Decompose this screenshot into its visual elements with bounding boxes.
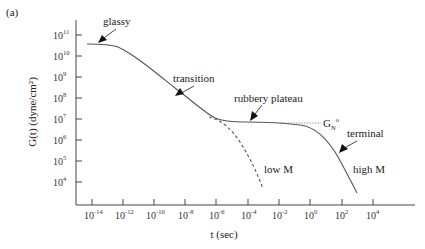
terminal-annotation: terminal	[339, 127, 384, 153]
gn0-label: GNo	[323, 116, 339, 131]
svg-text:10-4: 10-4	[241, 208, 257, 221]
svg-text:102: 102	[335, 208, 348, 221]
svg-text:105: 105	[53, 154, 66, 167]
panel-label: (a)	[6, 6, 19, 19]
svg-text:10-8: 10-8	[178, 208, 193, 221]
high-m-curve	[87, 44, 357, 193]
svg-text:10-6: 10-6	[209, 208, 225, 221]
x-ticks	[92, 199, 373, 205]
svg-text:104: 104	[53, 175, 67, 188]
x-tick-labels: 10-14 10-12 10-10 10-8 10-6 10-4 10-2 10…	[84, 208, 380, 221]
svg-text:rubbery plateau: rubbery plateau	[234, 92, 303, 104]
svg-text:10-10: 10-10	[146, 208, 165, 221]
transition-annotation: transition	[173, 72, 215, 96]
svg-text:GNo: GNo	[323, 116, 339, 131]
svg-text:109: 109	[53, 70, 66, 83]
svg-text:10-2: 10-2	[272, 208, 287, 221]
svg-text:1010: 1010	[53, 49, 70, 62]
svg-text:transition: transition	[173, 72, 215, 84]
low-m-curve	[209, 117, 263, 189]
y-axis-label: G(t) (dyne/cm²)	[26, 77, 39, 147]
high-m-label: high M	[353, 163, 385, 175]
svg-text:terminal: terminal	[347, 127, 384, 139]
chart: (a) 1011 1010 109 108 107 106 105 104	[0, 0, 425, 249]
y-tick-labels: 1011 1010 109 108 107 106 105 104	[53, 28, 70, 188]
svg-text:1011: 1011	[53, 28, 69, 41]
svg-text:104: 104	[366, 208, 380, 221]
svg-text:10-12: 10-12	[115, 208, 134, 221]
svg-text:10-14: 10-14	[84, 208, 103, 221]
low-m-label: low M	[264, 163, 293, 175]
y-ticks	[76, 35, 82, 182]
rubbery-plateau-annotation: rubbery plateau	[234, 92, 303, 121]
svg-text:100: 100	[304, 208, 317, 221]
svg-text:106: 106	[53, 133, 67, 146]
svg-text:107: 107	[53, 112, 67, 125]
glassy-annotation: glassy	[98, 15, 131, 43]
svg-text:108: 108	[53, 91, 66, 104]
x-axis-label: t (sec)	[210, 228, 238, 241]
svg-text:glassy: glassy	[103, 15, 131, 27]
